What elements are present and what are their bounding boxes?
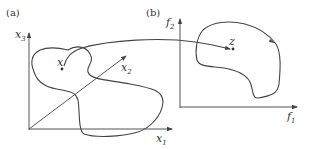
- diagram-canvas: (a) (b) x3 x1 x2 x f2 f1 z: [0, 0, 313, 149]
- point-x-label: x: [57, 56, 64, 69]
- x1-axis-label: x1: [156, 132, 167, 147]
- x2-axis: [29, 56, 126, 129]
- point-z: [232, 48, 235, 51]
- objective-region-curve: [196, 22, 280, 98]
- panel-a-label: (a): [6, 7, 20, 18]
- decision-space: x3 x1 x2 x: [15, 28, 172, 147]
- decision-region-curve: [32, 47, 163, 137]
- x2-axis-label: x2: [121, 61, 132, 76]
- f2-axis-label: f2: [165, 16, 175, 31]
- x3-axis-label: x3: [15, 28, 26, 43]
- panel-b-label: (b): [146, 7, 160, 18]
- point-z-label: z: [228, 35, 235, 48]
- objective-space: f2 f1 z: [165, 16, 297, 125]
- f1-axis-label: f1: [286, 110, 296, 125]
